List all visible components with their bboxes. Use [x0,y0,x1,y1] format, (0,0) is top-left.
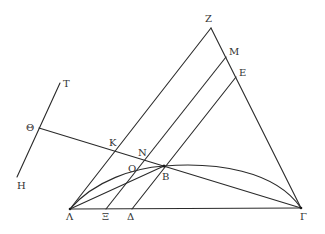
geometric-diagram: Z M E T Θ H K N O B Λ Ξ Δ Γ [0,0,325,234]
label-lambda: Λ [65,211,74,222]
line-z-gamma [211,28,301,208]
line-lambda-z [70,28,211,209]
line-theta-gamma [39,128,301,208]
label-z: Z [205,13,212,24]
line-t-h [17,83,60,177]
point-lambda [69,208,72,211]
label-o: O [128,163,136,174]
point-b [162,164,165,167]
chord-lambda-b [70,166,164,209]
label-t: T [63,78,70,89]
label-h: H [17,180,26,191]
label-b: B [162,171,169,182]
line-delta-e [132,77,236,209]
label-k: K [109,137,117,148]
line-lambda-gamma [70,208,301,209]
curve-lambda-b-gamma [70,165,301,209]
point-gamma [300,207,303,210]
label-e: E [239,67,246,78]
label-theta: Θ [26,122,34,133]
label-n: N [138,147,147,158]
label-delta: Δ [127,211,134,222]
label-xi: Ξ [102,211,109,222]
line-xi-m [106,57,226,209]
label-gamma: Γ [300,211,307,222]
label-m: M [229,46,239,57]
